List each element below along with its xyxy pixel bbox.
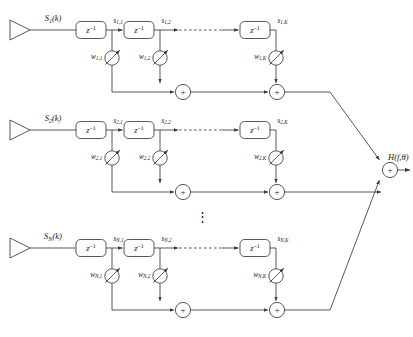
antenna-icon — [10, 238, 30, 258]
diagram-nodes — [76, 22, 398, 318]
delay-block-label: z–1 — [250, 25, 259, 34]
summation-plus-glyph: + — [180, 306, 185, 315]
weight-label: wN,2 — [138, 272, 150, 280]
summation-plus-glyph: + — [274, 306, 279, 315]
input-signal-label: S1(k) — [45, 14, 62, 24]
output-summation-plus-glyph: + — [387, 166, 392, 175]
delay-block-label: z–1 — [134, 125, 143, 134]
weight-label: w1,2 — [139, 54, 150, 62]
input-signal-label: S2(k) — [45, 114, 62, 124]
tap-label: s1,1 — [114, 18, 123, 26]
summation-plus-glyph: + — [180, 188, 185, 197]
tap-label: sN,2 — [162, 236, 172, 244]
tap-label: s1,2 — [162, 18, 171, 26]
weight-label: wN,1 — [90, 272, 102, 280]
row-output-wire — [330, 180, 379, 310]
tap-label: sN,K — [278, 236, 289, 244]
weight-label: w2,1 — [91, 154, 102, 162]
row-output-wire — [330, 92, 379, 160]
delay-block-label: z–1 — [86, 125, 95, 134]
weight-label: w2,K — [254, 154, 266, 162]
output-label: H(f,θ) — [388, 153, 408, 162]
weight-label: w1,1 — [91, 54, 102, 62]
summation-plus-glyph: + — [274, 188, 279, 197]
rows-ellipsis: ⋮ — [196, 210, 209, 223]
antenna-icon — [10, 20, 30, 40]
weight-label: wN,K — [253, 272, 266, 280]
tap-label: s2,2 — [162, 118, 171, 126]
tap-label: sN,1 — [114, 236, 124, 244]
figure-canvas: z–1z–1z–1w1,1s1,1w1,2s1,2w1,Ks1,K++S1(k)… — [0, 0, 413, 337]
tap-label: s1,K — [278, 18, 288, 26]
weight-label: w1,K — [254, 54, 266, 62]
delay-block-label: z–1 — [134, 25, 143, 34]
antenna-icon — [10, 120, 30, 140]
block-diagram-svg — [0, 0, 413, 337]
summation-plus-glyph: + — [274, 88, 279, 97]
summation-plus-glyph: + — [180, 88, 185, 97]
tap-label: s2,K — [278, 118, 288, 126]
delay-block-label: z–1 — [250, 125, 259, 134]
weight-label: w2,2 — [139, 154, 150, 162]
input-signal-label: SN(k) — [44, 232, 62, 242]
tap-label: s2,1 — [114, 118, 123, 126]
delay-block-label: z–1 — [86, 243, 95, 252]
delay-block-label: z–1 — [86, 25, 95, 34]
diagram-wires — [10, 20, 410, 310]
delay-block-label: z–1 — [250, 243, 259, 252]
delay-block-label: z–1 — [134, 243, 143, 252]
